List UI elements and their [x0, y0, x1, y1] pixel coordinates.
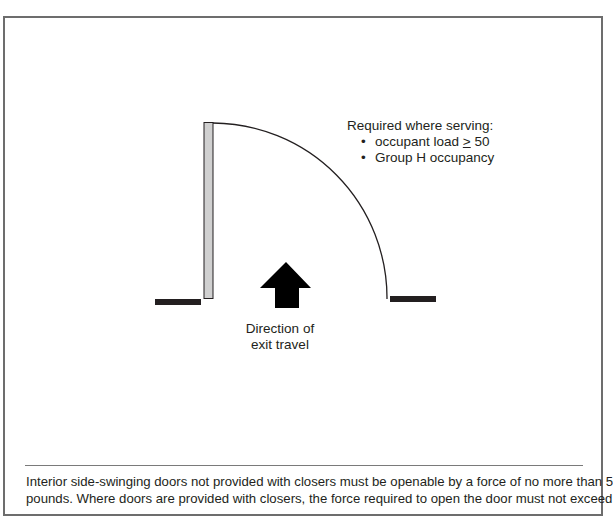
up-arrow-icon: [260, 262, 311, 308]
requirement-value: 50: [471, 134, 490, 149]
wall-right: [390, 296, 436, 302]
arrow-caption: Direction of exit travel: [230, 321, 330, 353]
footnote-divider: [25, 465, 583, 466]
wall-left: [155, 299, 201, 305]
requirement-group-h: Group H occupancy: [375, 150, 494, 166]
requirements-note: Required where serving: occupant load > …: [347, 118, 494, 166]
requirement-text: occupant load: [375, 134, 463, 149]
requirements-list: occupant load > 50 Group H occupancy: [347, 134, 494, 166]
arrow-caption-line2: exit travel: [230, 337, 330, 353]
footnote-line2: pounds. Where doors are provided with cl…: [26, 490, 586, 507]
arrow-caption-line1: Direction of: [230, 321, 330, 337]
requirement-text: Group H occupancy: [375, 150, 494, 165]
footnote: Interior side-swinging doors not provide…: [26, 473, 586, 507]
requirement-occupant-load: occupant load > 50: [375, 134, 494, 150]
door-leaf: [204, 123, 213, 299]
requirements-heading: Required where serving:: [347, 118, 494, 134]
greater-equal-symbol: >: [463, 134, 471, 149]
footnote-line1: Interior side-swinging doors not provide…: [26, 473, 586, 490]
